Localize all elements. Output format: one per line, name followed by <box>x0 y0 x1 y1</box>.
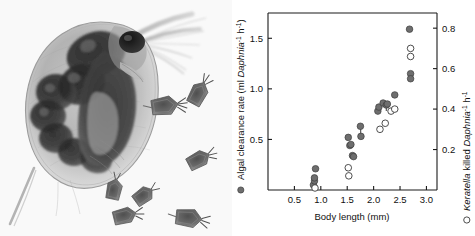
right-axis-marker-icon <box>464 217 470 223</box>
x-axis-title: Body length (mm) <box>315 211 390 222</box>
photo-grain <box>0 0 232 236</box>
daphnia-photograph <box>0 0 232 236</box>
y2-tick-label: 0.6 <box>442 63 455 74</box>
data-point-filled <box>350 153 357 160</box>
data-point-filled <box>407 75 414 82</box>
x-tick-label: 2.0 <box>367 194 380 205</box>
y-tick-label: 1.0 <box>250 83 263 94</box>
data-point-open <box>391 106 398 113</box>
x-tick-label: 2.5 <box>393 194 406 205</box>
data-point-open <box>312 185 319 192</box>
scatter-plot-canvas: 0.51.01.52.02.53.00.51.01.50.20.40.60.8 … <box>232 0 475 236</box>
data-point-open <box>407 45 414 52</box>
figure-container: 0.51.01.52.02.53.00.51.01.50.20.40.60.8 … <box>0 0 475 236</box>
x-tick-label: 1.5 <box>341 194 354 205</box>
y2-tick-label: 0.8 <box>442 23 455 34</box>
data-point-filled <box>391 92 398 99</box>
data-point-filled <box>384 101 391 108</box>
y-tick-label: 1.5 <box>250 33 263 44</box>
data-point-filled <box>406 26 413 33</box>
y2-axis-title-genus: Keratella <box>461 174 472 212</box>
scatter-plot-panel: 0.51.01.52.02.53.00.51.01.50.20.40.60.8 … <box>232 0 475 236</box>
y-axis-title-genus: Daphnia <box>235 42 246 77</box>
svg-text:Algal clearance rate (ml Daphn: Algal clearance rate (ml Daphnia-1 h-1) <box>235 19 246 180</box>
data-point-filled <box>357 123 364 130</box>
y-axis-title: Algal clearance rate (ml Daphnia-1 h-1) <box>235 19 246 193</box>
x-tick-label: 0.5 <box>288 194 301 205</box>
left-axis-marker-icon <box>238 187 244 193</box>
y2-tick-label: 0.2 <box>442 144 455 155</box>
x-tick-label: 1.0 <box>314 194 327 205</box>
data-point-open <box>407 53 414 60</box>
photograph-canvas <box>0 0 232 236</box>
data-point-open <box>346 173 353 180</box>
y-tick-label: 0.5 <box>250 134 263 145</box>
data-point-filled <box>348 141 355 148</box>
data-point-filled <box>312 165 319 172</box>
data-point-filled <box>345 134 352 141</box>
x-tick-label: 3.0 <box>420 194 433 205</box>
y-axis-title-part1: Algal clearance rate (ml <box>235 78 246 180</box>
data-point-open <box>382 120 389 127</box>
data-point-open <box>377 126 384 133</box>
data-point-open <box>345 164 352 171</box>
y2-axis-title-genus2: Daphnia <box>461 111 472 146</box>
data-point-filled <box>311 175 318 182</box>
y2-tick-label: 0.4 <box>442 103 455 114</box>
data-point-filled <box>358 133 365 140</box>
